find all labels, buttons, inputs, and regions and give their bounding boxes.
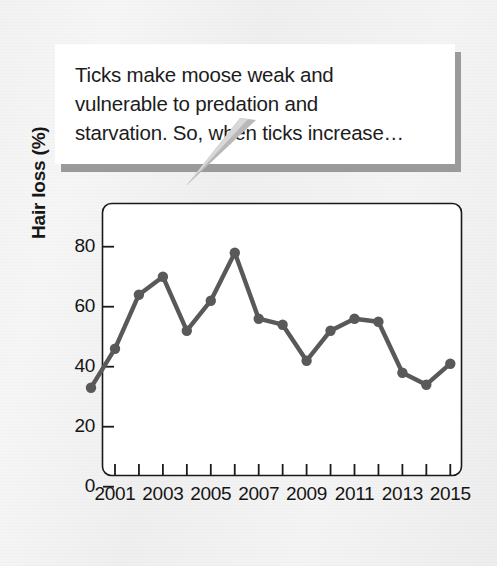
data-point (301, 356, 311, 366)
data-point (134, 290, 144, 300)
y-axis-tick-label: 20 (51, 415, 95, 437)
x-axis-tick-label: 2009 (281, 483, 333, 505)
plot-frame (103, 204, 462, 476)
x-axis-tick-label: 2015 (424, 483, 476, 505)
data-point (349, 314, 359, 324)
y-axis-tick-label: 60 (51, 295, 95, 317)
y-axis-tick-label: 40 (51, 355, 95, 377)
data-point (230, 248, 240, 258)
data-point (325, 326, 335, 336)
data-point (397, 368, 407, 378)
data-point (277, 320, 287, 330)
data-point (206, 296, 216, 306)
x-axis-tick-label: 2007 (233, 483, 285, 505)
x-axis-tick-label: 2013 (376, 483, 428, 505)
data-point (373, 317, 383, 327)
x-axis-tick-label: 2005 (185, 483, 237, 505)
data-point (86, 383, 96, 393)
y-axis-tick-label: 80 (51, 235, 95, 257)
data-point (182, 326, 192, 336)
data-point (254, 314, 264, 324)
x-axis-tick-label: 2001 (89, 483, 141, 505)
x-axis-tick-label: 2003 (137, 483, 189, 505)
data-point (421, 380, 431, 390)
data-point (110, 344, 120, 354)
data-point (445, 359, 455, 369)
figure-root: Ticks make moose weak and vulnerable to … (0, 0, 497, 566)
data-point (158, 272, 168, 282)
chart: Hair loss (%) 020406080 2001200320052007… (0, 0, 497, 566)
x-axis-tick-label: 2011 (329, 483, 381, 505)
